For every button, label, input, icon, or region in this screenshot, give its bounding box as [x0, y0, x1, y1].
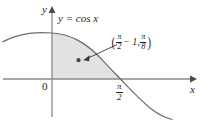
origin-label: 0 [42, 81, 48, 92]
centroid-y-denominator: 8 [140, 43, 146, 52]
figure-canvas: y x 0 y = cos x π 2 (π2− 1,π8) [0, 0, 203, 121]
open-paren: ( [112, 36, 116, 48]
centroid-x-offset: − 1 [123, 36, 137, 47]
centroid-x-denominator: 2 [116, 43, 122, 52]
centroid-dot [76, 58, 80, 62]
x-axis-label: x [190, 84, 195, 95]
centroid-coordinate-label: (π2− 1,π8) [111, 33, 152, 51]
tick-numerator: π [116, 82, 123, 93]
cosine-plot-svg [0, 0, 203, 121]
curve-equation-label: y = cos x [58, 13, 98, 24]
close-paren: ) [147, 36, 151, 48]
y-axis-arrowhead [49, 6, 56, 13]
y-axis-label: y [42, 4, 47, 15]
x-axis-arrowhead [190, 75, 197, 82]
centroid-x-fraction: π2 [116, 33, 122, 51]
tick-fraction: π 2 [116, 82, 123, 102]
tick-denominator: 2 [116, 93, 123, 103]
centroid-y-fraction: π8 [140, 33, 146, 51]
x-tick-label-pi-over-2: π 2 [116, 82, 123, 102]
